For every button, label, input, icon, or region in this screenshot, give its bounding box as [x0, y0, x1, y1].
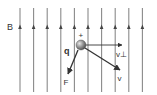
field-arrowhead-icon — [86, 25, 90, 30]
vectors — [68, 45, 122, 74]
particle-label-q: q — [64, 46, 70, 56]
field-arrowhead-icon — [45, 25, 49, 30]
field-label-b: B — [7, 22, 13, 32]
field-arrowhead-icon — [100, 25, 104, 30]
field-arrowhead-icon — [18, 25, 22, 30]
v-perp-label: v⊥ — [116, 50, 127, 59]
field-arrowhead-icon — [73, 25, 77, 30]
velocity-label-v: v — [118, 74, 122, 83]
vector-arrow-f — [68, 50, 78, 74]
field-arrowhead-icon — [32, 25, 36, 30]
field-arrowhead-icon — [141, 25, 145, 30]
charge-sign-label: + — [79, 31, 84, 40]
field-arrowhead-icon — [59, 25, 63, 30]
charged-particle — [76, 40, 86, 50]
field-arrowhead-icon — [113, 25, 117, 30]
magnetic-force-diagram: B + q v⊥ v F — [0, 0, 157, 95]
field-arrowhead-icon — [127, 25, 131, 30]
force-label-f: F — [64, 78, 69, 87]
